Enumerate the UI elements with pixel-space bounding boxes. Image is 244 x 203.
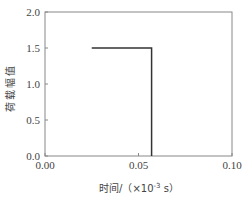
x-tick-label: 0.10 bbox=[222, 159, 242, 171]
data-series-load bbox=[92, 48, 152, 156]
y-tick-label: 2.0 bbox=[26, 6, 40, 18]
chart: 0.00.51.01.52.0 0.000.050.10 荷载幅值 时间/（×1… bbox=[0, 0, 244, 203]
y-tick-label: 0.5 bbox=[26, 114, 40, 126]
x-tick-label: 0.00 bbox=[35, 159, 55, 171]
y-tick-label: 1.0 bbox=[26, 78, 40, 90]
x-tick-label: 0.05 bbox=[129, 159, 149, 171]
y-tick-label: 1.5 bbox=[26, 42, 40, 54]
plot-frame bbox=[45, 12, 232, 156]
x-axis-label: 时间/（×10-3 s） bbox=[99, 182, 179, 194]
y-axis-label: 荷载幅值 bbox=[4, 64, 16, 112]
